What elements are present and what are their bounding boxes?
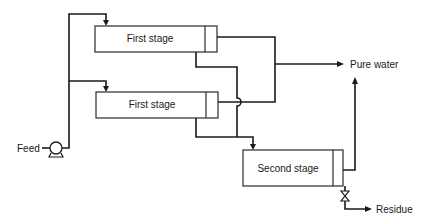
feed-label: Feed [17, 143, 40, 154]
arrow-up-to-pure-water [352, 77, 358, 84]
stage2-permeate-piping [343, 77, 358, 170]
stage1b-concentrate-line [196, 118, 253, 145]
permeate-loop [217, 37, 275, 102]
arrow-to-residue [365, 206, 372, 212]
arrow-into-stage1b [103, 86, 109, 92]
feed-line-to-stage1b [69, 81, 106, 88]
pure-water-label: Pure water [350, 59, 399, 70]
process-flow-diagram: First stage First stage Second stage [0, 0, 441, 224]
residue-piping [341, 186, 372, 212]
valve-icon [341, 191, 349, 201]
first-stage-unit-a: First stage [95, 26, 217, 52]
second-stage-unit: Second stage [243, 150, 343, 186]
arrow-to-pure-water [337, 61, 344, 67]
stage2-label: Second stage [257, 163, 319, 174]
residue-line [345, 201, 366, 209]
pump-icon [49, 142, 63, 157]
permeate-piping [217, 37, 344, 102]
first-stage-unit-b: First stage [96, 92, 218, 118]
residue-label: Residue [376, 204, 413, 215]
arrow-into-stage2 [250, 144, 256, 150]
arrow-into-stage1a [103, 20, 109, 26]
stage1a-label: First stage [127, 33, 174, 44]
stage1b-label: First stage [129, 99, 176, 110]
stage2-permeate-line [343, 82, 355, 170]
